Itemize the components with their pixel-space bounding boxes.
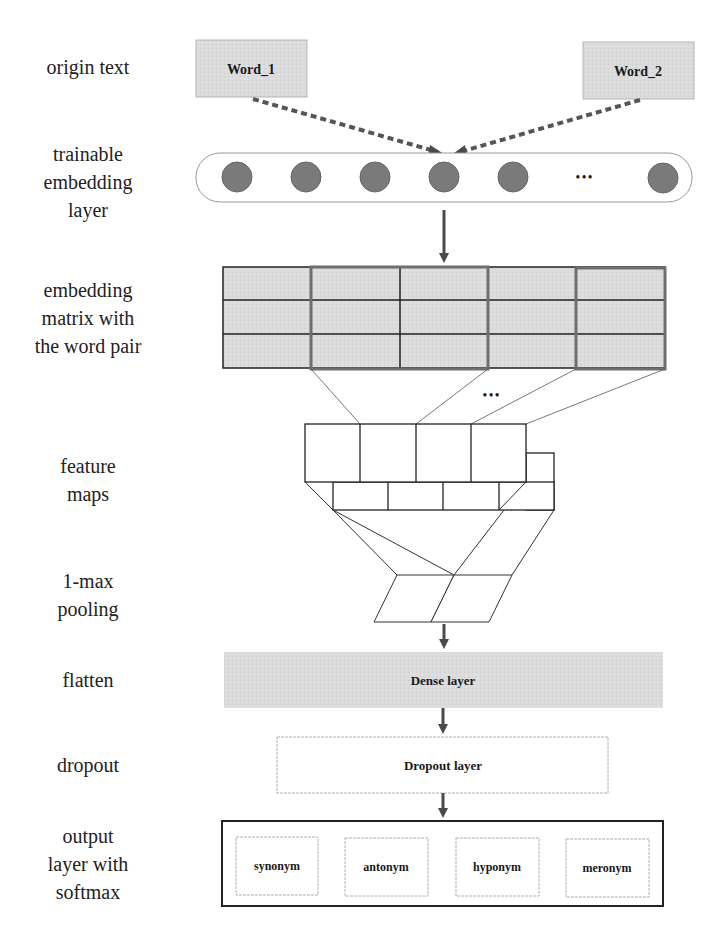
output-layer: synonym antonym hyponym meronym (222, 821, 663, 906)
class-meronym: meronym (566, 839, 649, 897)
matrix-ellipsis: ••• (483, 388, 502, 402)
embedding-matrix (223, 267, 665, 369)
embedding-unit (648, 163, 678, 193)
word2-node: Word_2 (583, 42, 694, 99)
class-label: hyponym (473, 860, 521, 874)
embedding-unit (360, 162, 390, 192)
feature-maps (305, 424, 554, 510)
dropout-layer: Dropout layer (277, 737, 608, 793)
dense-layer: Dense layer (224, 652, 663, 708)
embedding-layer: ••• (196, 153, 692, 202)
word1-node: Word_1 (196, 40, 307, 97)
dense-layer-text: Dense layer (411, 673, 476, 688)
embedding-unit (291, 162, 321, 192)
dropout-layer-text: Dropout layer (404, 758, 482, 773)
dashed-arrow-word1 (253, 99, 438, 152)
class-synonym: synonym (236, 837, 318, 895)
embedding-unit (429, 162, 459, 192)
class-antonym: antonym (345, 838, 428, 896)
class-label: antonym (363, 860, 408, 874)
class-hyponym: hyponym (456, 838, 539, 896)
architecture-diagram: Word_1 Word_2 ••• ••• (0, 0, 719, 936)
word1-text: Word_1 (227, 62, 275, 77)
embedding-unit (498, 162, 528, 192)
dashed-arrow-word2 (460, 100, 640, 152)
class-label: synonym (254, 859, 300, 873)
class-label: meronym (582, 861, 631, 875)
embedding-unit (222, 162, 252, 192)
pooling-output (374, 575, 512, 622)
embedding-ellipsis: ••• (576, 170, 595, 184)
word2-text: Word_2 (614, 64, 662, 79)
